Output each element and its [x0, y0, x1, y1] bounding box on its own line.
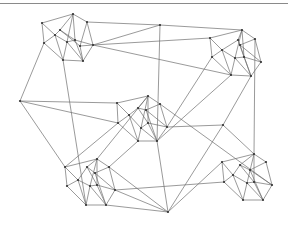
graph-node [156, 140, 158, 142]
cluster-edge [263, 185, 272, 200]
graph-node [89, 185, 91, 187]
cluster-edge [138, 128, 141, 141]
graph-node [211, 56, 213, 58]
graph-node [128, 114, 130, 116]
cluster-edge [242, 30, 255, 39]
cluster-top-right [209, 29, 262, 77]
long-edge [93, 38, 210, 45]
long-edge [20, 43, 44, 101]
long-edge [93, 25, 160, 45]
graph-node [265, 161, 267, 163]
graph-node [271, 184, 273, 186]
cluster-edge [60, 30, 80, 46]
graph-node [239, 44, 241, 46]
hub-node [222, 124, 224, 126]
long-edge [223, 76, 251, 125]
cluster-edge [222, 40, 238, 50]
graph-node [249, 169, 251, 171]
cluster-edge [222, 50, 231, 75]
cluster-top-left [41, 13, 94, 62]
cluster-edge [235, 58, 251, 76]
graph-node [221, 161, 223, 163]
graph-node [234, 57, 236, 59]
graph-node [242, 199, 244, 201]
graph-node [232, 174, 234, 176]
graph-node [209, 37, 211, 39]
graph-node [254, 38, 256, 40]
graph-node [114, 189, 116, 191]
long-edge [167, 125, 223, 127]
long-edge [160, 25, 242, 30]
graph-node [159, 103, 161, 105]
cluster-edge [157, 127, 167, 141]
long-edge [109, 141, 138, 167]
graph-node [94, 172, 96, 174]
graph-node [230, 74, 232, 76]
cluster-edge [233, 165, 240, 175]
cluster-edge [83, 45, 93, 61]
long-edge [157, 25, 160, 141]
cluster-edge [44, 35, 55, 43]
long-edge [167, 57, 212, 127]
cluster-edge [231, 58, 235, 75]
long-edge [20, 101, 118, 123]
graph-node [147, 122, 149, 124]
graph-node [96, 158, 98, 160]
cluster-edge [148, 123, 157, 141]
graph-node [72, 13, 74, 15]
inter-cluster-edges [20, 22, 272, 212]
cluster-edge [240, 165, 254, 182]
cluster-edge [231, 75, 251, 76]
graph-node [105, 204, 107, 206]
long-edge [160, 104, 272, 185]
graph-node [41, 22, 43, 24]
cluster-edge [210, 38, 222, 50]
graph-node [43, 42, 45, 44]
graph-node [59, 29, 61, 31]
graph-node [86, 166, 88, 168]
graph-node [221, 49, 223, 51]
cluster-edge [42, 23, 55, 35]
cluster-edge [250, 162, 266, 170]
graph-node [250, 75, 252, 77]
cluster-edge [73, 14, 75, 40]
graph-node [92, 44, 94, 46]
cluster-edge [254, 154, 266, 162]
cluster-edge [233, 175, 247, 183]
graph-node [137, 140, 139, 142]
graph-node [253, 181, 255, 183]
cluster-edge [224, 182, 243, 200]
cluster-edge [160, 104, 167, 127]
long-edge [20, 101, 65, 167]
cluster-edge [235, 30, 242, 58]
cluster-edge [87, 22, 93, 45]
cluster-bottom-left [64, 158, 116, 206]
cluster-edge [117, 103, 118, 123]
cluster-edge [255, 39, 261, 62]
cluster-edge [73, 14, 87, 22]
graph-node [86, 21, 88, 23]
cluster-edge [212, 57, 231, 75]
graph-node [239, 164, 241, 166]
cluster-edge [63, 60, 83, 61]
graph-node [77, 179, 79, 181]
hub-node [19, 100, 21, 102]
cluster-edge [251, 62, 261, 76]
cluster-edge [235, 57, 244, 58]
node-clusters [41, 13, 273, 206]
cluster-edge [42, 23, 44, 43]
long-edge [20, 101, 117, 103]
long-edge [157, 141, 168, 212]
cluster-edge [86, 186, 90, 205]
cluster-edge [78, 167, 87, 180]
graph-node [66, 185, 68, 187]
hub-nodes [19, 24, 224, 213]
graph-node [253, 153, 255, 155]
cluster-edge [63, 42, 67, 60]
cluster-edge [97, 159, 109, 167]
cluster-edge [224, 175, 233, 182]
graph-node [96, 184, 98, 186]
graph-node [166, 126, 168, 128]
graph-node [66, 41, 68, 43]
cluster-edge [87, 167, 97, 185]
